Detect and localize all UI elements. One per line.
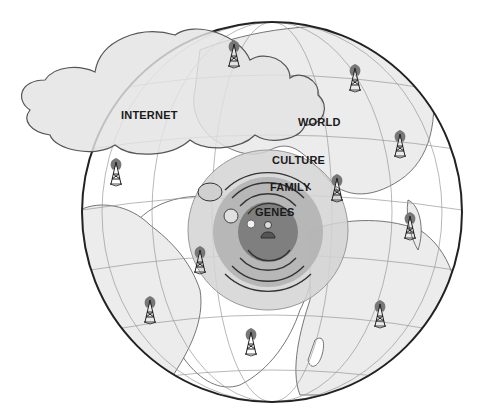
world-label: WORLD: [298, 116, 341, 128]
culture-label: CULTURE: [272, 154, 325, 166]
genes-label: GENES: [255, 206, 295, 218]
internet-label: INTERNET: [121, 109, 178, 121]
genes-bubble: [247, 220, 255, 228]
family-label: FAMILY: [270, 181, 311, 193]
culture-bubble: [198, 183, 222, 201]
family-bubble: [224, 209, 238, 223]
globe-illustration: [0, 0, 478, 417]
influence-diagram: INTERNET WORLD CULTURE FAMILY GENES: [0, 0, 478, 417]
